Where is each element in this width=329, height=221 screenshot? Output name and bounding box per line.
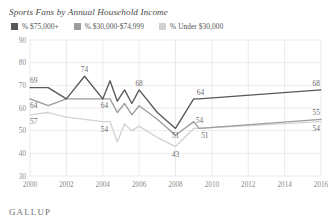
legend-item-0[interactable]: % $75,000+ — [11, 22, 59, 31]
x-tick-label: 2000 — [23, 181, 38, 189]
data-point-label: 54 — [196, 116, 204, 125]
legend-swatch-icon — [11, 23, 18, 30]
data-point-label: 64 — [30, 101, 38, 110]
x-tick-label: 2006 — [132, 181, 147, 189]
data-point-label: 68 — [135, 79, 143, 88]
y-tick-label: 30 — [19, 173, 27, 181]
legend-item-2[interactable]: % Under $30,000 — [159, 22, 223, 31]
x-tick-label: 2008 — [168, 181, 183, 189]
data-point-label: 54 — [313, 124, 321, 133]
data-point-label: 55 — [313, 108, 321, 117]
data-point-label: 74 — [81, 65, 89, 74]
data-point-label: 64 — [197, 88, 205, 97]
x-tick-label: 2004 — [96, 181, 111, 189]
x-tick-label: 2010 — [205, 181, 220, 189]
data-point-label: 54 — [101, 125, 109, 134]
data-point-label: 57 — [30, 117, 38, 126]
legend-label: % $75,000+ — [22, 22, 59, 31]
legend-swatch-icon — [74, 23, 81, 30]
x-tick-label: 2016 — [314, 181, 329, 189]
y-tick-label: 40 — [19, 150, 27, 158]
x-axis-tick-labels: 200020022004200620082010201220142016 — [23, 181, 329, 189]
data-point-label: 69 — [30, 76, 38, 85]
data-point-label: 64 — [101, 101, 109, 110]
y-axis-tick-labels: 30405060708090 — [19, 37, 27, 181]
x-tick-label: 2002 — [59, 181, 74, 189]
x-tick-label: 2014 — [277, 181, 292, 189]
y-tick-label: 50 — [19, 127, 27, 135]
data-point-label: 68 — [313, 79, 321, 88]
y-tick-label: 90 — [19, 37, 27, 45]
y-tick-label: 70 — [19, 82, 27, 90]
chart-legend: % $75,000+% $30,000-$74,999% Under $30,0… — [11, 22, 325, 31]
y-tick-label: 60 — [19, 105, 27, 113]
plot-area: 30405060708090 6964577464546851436454516… — [8, 34, 325, 194]
legend-label: % Under $30,000 — [170, 22, 223, 31]
line-chart-svg: 30405060708090 6964577464546851436454516… — [8, 34, 329, 194]
data-point-label: 43 — [172, 150, 180, 159]
x-tick-label: 2012 — [241, 181, 256, 189]
legend-label: % $30,000-$74,999 — [85, 22, 144, 31]
legend-item-1[interactable]: % $30,000-$74,999 — [74, 22, 144, 31]
y-tick-label: 80 — [19, 59, 27, 67]
chart-card: Sports Fans by Annual Household Income %… — [0, 0, 329, 221]
chart-title: Sports Fans by Annual Household Income — [9, 7, 325, 17]
data-point-label: 51 — [172, 131, 180, 140]
data-point-label: 51 — [201, 131, 209, 140]
gallup-logo: GALLUP — [9, 207, 51, 217]
legend-swatch-icon — [159, 23, 166, 30]
